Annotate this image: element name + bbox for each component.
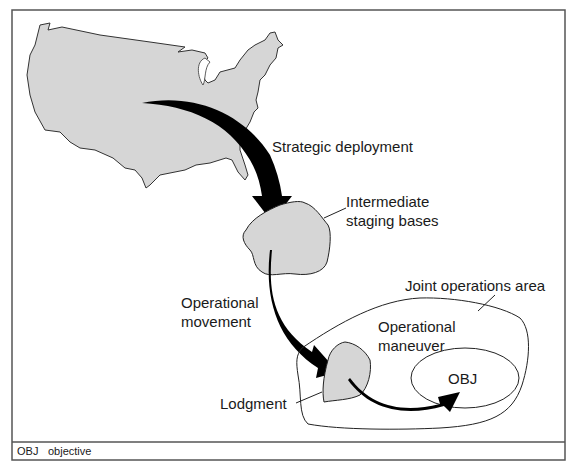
deployment-diagram: Strategic deployment Intermediate stagin… bbox=[0, 0, 577, 470]
label-operational-movement-line2: movement bbox=[181, 313, 252, 330]
label-objective: OBJ bbox=[448, 370, 477, 387]
legend-meaning: objective bbox=[48, 445, 91, 457]
label-strategic-deployment: Strategic deployment bbox=[272, 138, 414, 155]
label-operational-maneuver-line2: maneuver bbox=[378, 337, 445, 354]
label-isb-line1: Intermediate bbox=[346, 193, 429, 210]
label-joint-operations-area: Joint operations area bbox=[405, 277, 546, 294]
label-isb-line2: staging bases bbox=[346, 212, 439, 229]
label-lodgment: Lodgment bbox=[220, 395, 288, 412]
legend-abbr: OBJ bbox=[17, 445, 38, 457]
label-operational-movement-line1: Operational bbox=[181, 294, 259, 311]
label-operational-maneuver-line1: Operational bbox=[378, 318, 456, 335]
